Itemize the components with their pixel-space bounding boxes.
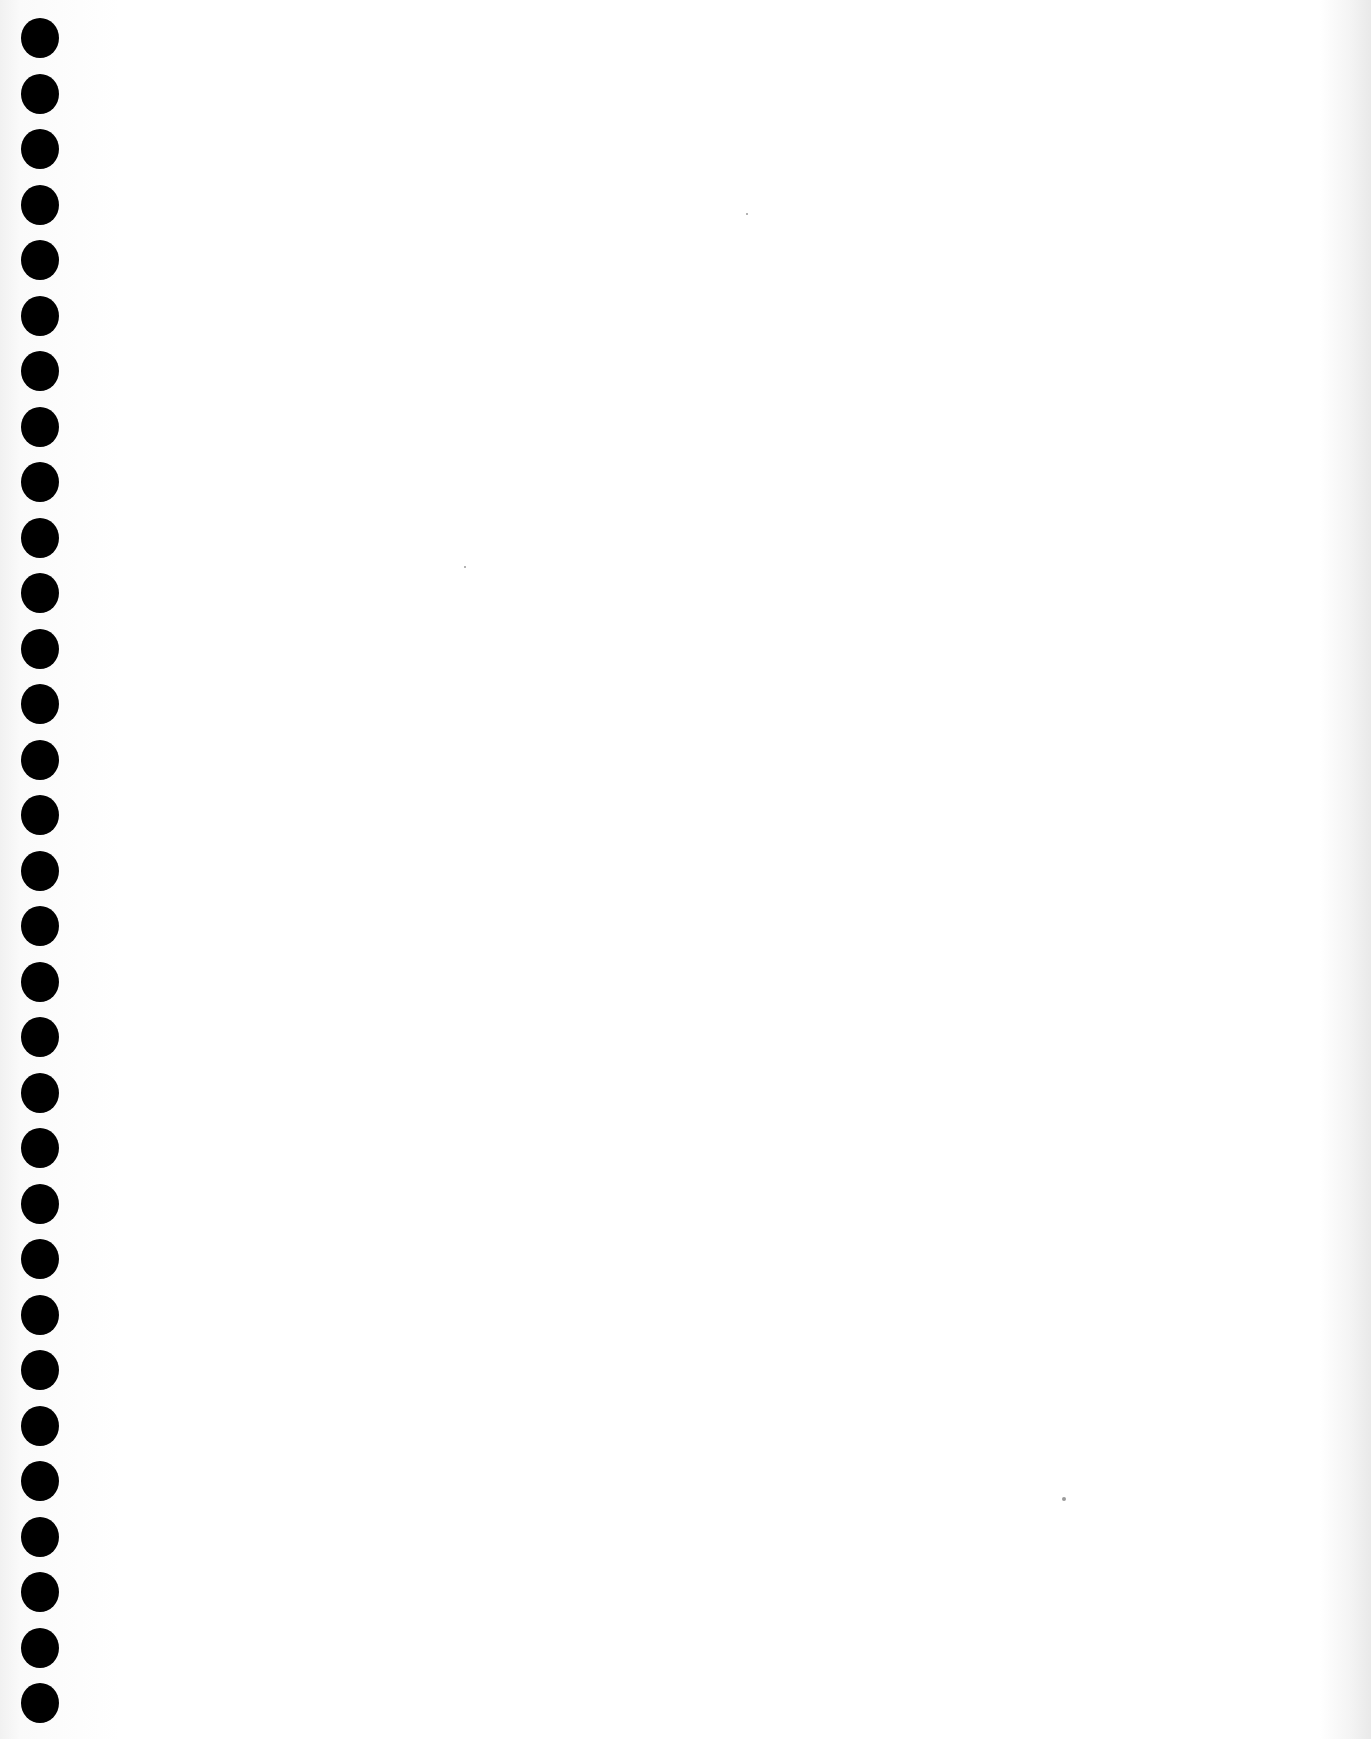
binding-hole — [21, 740, 59, 780]
binding-hole — [21, 240, 59, 280]
binding-hole — [21, 351, 59, 391]
binding-hole — [21, 18, 59, 58]
binding-hole — [21, 1239, 59, 1279]
binding-hole — [21, 74, 59, 114]
binding-hole — [21, 462, 59, 502]
binding-hole — [21, 1572, 59, 1612]
binding-hole — [21, 684, 59, 724]
binding-hole — [21, 1517, 59, 1557]
paper-speck — [1062, 1497, 1066, 1501]
binding-hole — [21, 1073, 59, 1113]
spiral-binding-holes — [0, 0, 90, 1739]
binding-hole — [21, 906, 59, 946]
binding-hole — [21, 407, 59, 447]
binding-hole — [21, 1017, 59, 1057]
blank-page — [0, 0, 1371, 1739]
binding-hole — [21, 185, 59, 225]
binding-hole — [21, 518, 59, 558]
binding-hole — [21, 1406, 59, 1446]
binding-hole — [21, 573, 59, 613]
binding-hole — [21, 1461, 59, 1501]
binding-hole — [21, 129, 59, 169]
binding-hole — [21, 851, 59, 891]
binding-hole — [21, 1295, 59, 1335]
binding-hole — [21, 1128, 59, 1168]
binding-hole — [21, 1184, 59, 1224]
binding-hole — [21, 1350, 59, 1390]
paper-speck — [464, 566, 466, 568]
binding-hole — [21, 1683, 59, 1723]
binding-hole — [21, 962, 59, 1002]
binding-hole — [21, 629, 59, 669]
binding-hole — [21, 795, 59, 835]
binding-hole — [21, 296, 59, 336]
binding-hole — [21, 1628, 59, 1668]
paper-speck — [746, 213, 748, 215]
